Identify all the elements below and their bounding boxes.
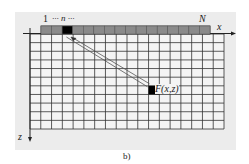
z-axis-label: z bbox=[18, 132, 22, 142]
label-last-detector: N bbox=[199, 14, 206, 24]
detector-cell bbox=[52, 26, 63, 34]
detector-cell bbox=[157, 26, 168, 34]
x-axis-label: x bbox=[217, 22, 221, 32]
detector-cell-highlighted bbox=[62, 26, 73, 34]
detector-cell bbox=[178, 26, 189, 34]
z-axis-arrow-icon bbox=[28, 137, 32, 142]
detector-cell bbox=[104, 26, 115, 34]
detector-cell bbox=[199, 26, 210, 34]
detector-cell bbox=[83, 26, 94, 34]
detector-cell bbox=[41, 26, 52, 34]
x-axis-arrow-icon bbox=[231, 32, 236, 36]
detector-cell bbox=[115, 26, 126, 34]
label-n-detector: ··· n ··· bbox=[52, 14, 75, 23]
detector-cell bbox=[126, 26, 137, 34]
point-label: F(x,z) bbox=[155, 84, 179, 94]
diagram-canvas bbox=[0, 0, 249, 164]
detector-cell bbox=[73, 26, 84, 34]
figure-caption: b) bbox=[123, 152, 131, 161]
detector-cell bbox=[168, 26, 179, 34]
detector-cell bbox=[189, 26, 200, 34]
detector-cell bbox=[94, 26, 105, 34]
label-first-detector: 1 bbox=[43, 14, 48, 24]
detector-cell bbox=[147, 26, 158, 34]
detector-cell bbox=[136, 26, 147, 34]
